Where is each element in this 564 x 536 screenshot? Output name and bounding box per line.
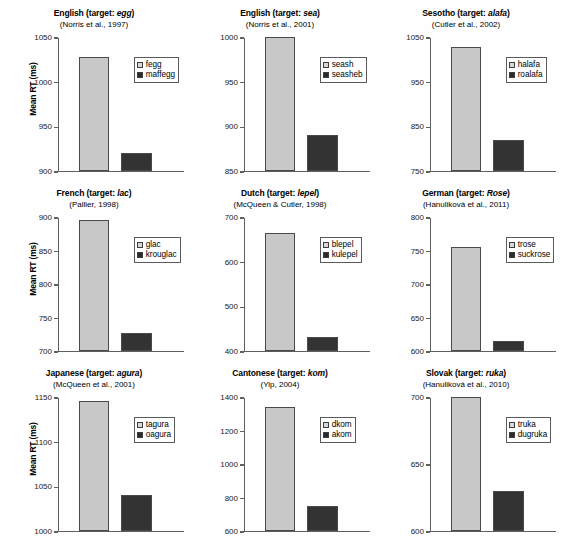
y-axis-tick-label: 1400 xyxy=(220,394,238,402)
panel-citation: (Norris et al., 2001) xyxy=(186,19,374,30)
bar-dugruka xyxy=(493,491,524,531)
bar-blepel xyxy=(265,233,296,350)
y-axis-tick xyxy=(426,127,430,128)
y-axis-tick xyxy=(54,171,58,172)
bar-glac xyxy=(79,220,110,351)
legend-item: seash xyxy=(323,60,363,70)
legend-item: kulepel xyxy=(323,250,358,260)
panel-title-target-word: Rose xyxy=(487,188,507,198)
y-axis-tick-label: 1150 xyxy=(35,394,52,402)
panel-title-target-word: kom xyxy=(308,368,325,378)
x-axis-line xyxy=(430,351,556,352)
y-axis-tick xyxy=(54,442,58,443)
panel-title-block: English (target: egg)(Norris et al., 199… xyxy=(0,8,188,30)
y-axis-tick xyxy=(240,217,244,218)
y-axis-tick-label: 1050 xyxy=(406,34,424,42)
y-axis-tick xyxy=(54,397,58,398)
legend-label: dkom xyxy=(332,420,352,430)
panel-title-prefix: Cantonese (target: xyxy=(232,368,308,378)
panel-title-suffix: ) xyxy=(129,188,132,198)
y-axis-label: Mean RT (ms) xyxy=(28,422,38,475)
y-axis-tick-label: 850 xyxy=(225,168,238,176)
y-axis-line xyxy=(58,218,59,352)
y-axis-line xyxy=(430,218,431,352)
bar-halafa xyxy=(451,47,482,171)
y-axis-tick-label: 850 xyxy=(39,248,52,256)
panel-title-block: Dutch (target: lepel)(McQueen & Cutler, … xyxy=(186,188,374,210)
bar-fegg xyxy=(79,57,110,170)
y-axis-tick xyxy=(426,284,430,285)
legend-swatch-light-icon xyxy=(509,62,515,68)
y-axis-tick xyxy=(426,464,430,465)
chart-panel-sesotho-alafa: Sesotho (target: alafa)(Cutler et al., 2… xyxy=(372,0,560,178)
y-axis-tick-label: 700 xyxy=(411,394,424,402)
y-axis-tick-label: 800 xyxy=(225,495,238,503)
x-axis-line xyxy=(430,531,556,532)
y-axis-tick xyxy=(240,464,244,465)
panel-title-target-word: alafa xyxy=(488,8,507,18)
panel-title-prefix: French (target: xyxy=(56,188,117,198)
y-axis-tick xyxy=(54,82,58,83)
legend-label: maffegg xyxy=(146,70,175,80)
panel-title-suffix: ) xyxy=(503,368,506,378)
y-axis-tick xyxy=(54,351,58,352)
y-axis-tick-label: 900 xyxy=(39,214,52,222)
y-axis-tick-label: 750 xyxy=(39,315,52,323)
panel-title: Sesotho (target: alafa) xyxy=(372,8,560,19)
y-axis-tick-label: 750 xyxy=(411,248,424,256)
y-axis-tick xyxy=(54,531,58,532)
legend-label: dugruka xyxy=(518,430,548,440)
legend: halafaroalafa xyxy=(506,57,547,83)
y-axis-tick xyxy=(240,397,244,398)
y-axis-tick xyxy=(54,318,58,319)
panel-title-target-word: lac xyxy=(117,188,129,198)
legend-item: akom xyxy=(323,430,352,440)
legend-label: oagura xyxy=(146,430,172,440)
legend: taguraoagura xyxy=(134,417,176,443)
chart-panel-japanese-agura: Japanese (target: agura)(McQueen et al.,… xyxy=(0,360,188,536)
legend-item: suckrose xyxy=(509,250,551,260)
bar-krouglac xyxy=(121,333,152,351)
panel-title-suffix: ) xyxy=(507,8,510,18)
y-axis-label: Mean RT (ms) xyxy=(28,62,38,115)
y-axis-tick xyxy=(240,37,244,38)
legend-item: tagura xyxy=(137,420,172,430)
panel-title-prefix: German (target: xyxy=(422,188,487,198)
legend: glackrouglac xyxy=(134,237,181,263)
y-axis-tick xyxy=(426,318,430,319)
y-axis-tick-label: 1000 xyxy=(34,79,52,87)
x-axis-line xyxy=(244,171,370,172)
y-axis-tick-label: 1100 xyxy=(35,439,52,447)
legend-swatch-light-icon xyxy=(323,62,329,68)
legend-label: glac xyxy=(146,240,161,250)
y-axis-tick xyxy=(426,397,430,398)
y-axis-tick-label: 800 xyxy=(411,214,424,222)
legend-swatch-light-icon xyxy=(509,422,515,428)
y-axis-tick-label: 700 xyxy=(225,214,238,222)
panel-title-target-word: sea xyxy=(303,8,317,18)
legend-item: dkom xyxy=(323,420,352,430)
panel-title-suffix: ) xyxy=(139,368,142,378)
bar-trose xyxy=(451,247,482,351)
panel-title-block: German (target: Rose)(Hanuliková et al.,… xyxy=(372,188,560,210)
legend-swatch-light-icon xyxy=(323,242,329,248)
panel-title-prefix: English (target: xyxy=(240,8,303,18)
y-axis-line xyxy=(430,398,431,532)
legend-swatch-dark-icon xyxy=(137,72,143,78)
y-axis-tick-label: 1200 xyxy=(220,428,238,436)
panel-title-suffix: ) xyxy=(507,188,510,198)
y-axis-tick-label: 700 xyxy=(39,348,52,356)
bar-dkom xyxy=(265,407,296,531)
y-axis-tick xyxy=(426,37,430,38)
legend-label: blepel xyxy=(332,240,354,250)
panel-title-block: Sesotho (target: alafa)(Cutler et al., 2… xyxy=(372,8,560,30)
bar-roalafa xyxy=(493,140,524,170)
y-axis-tick xyxy=(54,217,58,218)
bar-truka xyxy=(451,397,482,531)
legend-item: blepel xyxy=(323,240,358,250)
panel-title-block: Cantonese (target: kom)(Yip, 2004) xyxy=(186,368,374,390)
legend-item: krouglac xyxy=(137,250,177,260)
y-axis-line xyxy=(430,38,431,172)
chart-panel-english-egg: English (target: egg)(Norris et al., 199… xyxy=(0,0,188,178)
legend: seashseasheb xyxy=(320,57,367,83)
